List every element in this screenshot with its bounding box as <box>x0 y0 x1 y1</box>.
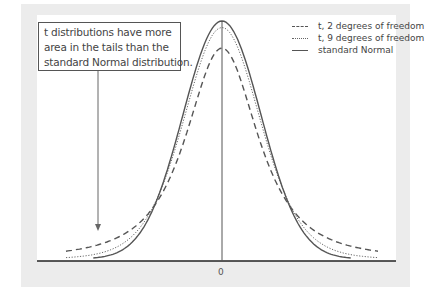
x-tick-0: 0 <box>218 267 224 277</box>
annotation-line-3: standard Normal distribution. <box>44 55 180 70</box>
annotation-line-1: t distributions have more <box>44 25 180 40</box>
annotation-arrow-head <box>95 224 101 231</box>
legend-item-t2: t, 2 degrees of freedom <box>292 20 424 32</box>
annotation-box: t distributions have more area in the ta… <box>38 22 181 71</box>
legend: t, 2 degrees of freedom t, 9 degrees of … <box>292 20 424 56</box>
legend-item-t9: t, 9 degrees of freedom <box>292 32 424 44</box>
legend-item-normal: standard Normal <box>292 44 424 56</box>
solid-line-icon <box>292 50 308 51</box>
dashed-line-icon <box>292 26 308 27</box>
annotation-line-2: area in the tails than the <box>44 40 180 55</box>
dotted-line-icon <box>292 38 308 39</box>
